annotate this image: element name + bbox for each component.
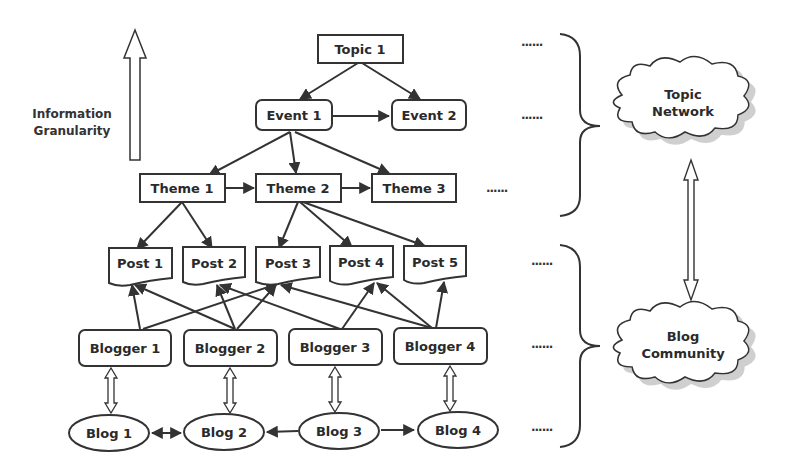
cloud-label: Community xyxy=(641,346,725,361)
cloud-link-double-arrow-icon xyxy=(684,160,698,300)
cloud-label: Blog xyxy=(667,329,700,344)
theme-node[interactable]: Theme 2 xyxy=(256,174,341,202)
blog-node[interactable]: Blog 3 xyxy=(299,413,379,449)
svg-text:Blogger 4: Blogger 4 xyxy=(405,339,476,354)
blogger-node[interactable]: Blogger 4 xyxy=(394,328,487,364)
post-node[interactable]: Post 5 xyxy=(404,246,466,284)
svg-text:......: ...... xyxy=(531,420,553,434)
granularity-arrow-icon xyxy=(124,30,146,160)
svg-text:Post 2: Post 2 xyxy=(191,256,237,271)
svg-text:Post 3: Post 3 xyxy=(265,256,311,271)
svg-text:Post 4: Post 4 xyxy=(338,255,384,270)
axis-label-line2: Granularity xyxy=(34,124,111,138)
topic-node[interactable]: Topic 1 xyxy=(318,35,403,63)
ellipsis-markers: ...... ...... ...... ...... ...... .....… xyxy=(486,35,553,434)
svg-text:Blog 3: Blog 3 xyxy=(316,424,362,439)
cloud-label: Network xyxy=(652,104,714,119)
post-node[interactable]: Post 2 xyxy=(183,247,245,285)
post-node[interactable]: Post 1 xyxy=(109,248,172,286)
svg-text:Blog 1: Blog 1 xyxy=(86,426,132,441)
theme-node[interactable]: Theme 3 xyxy=(372,174,456,202)
svg-text:Post 1: Post 1 xyxy=(117,256,163,271)
double-arrow-icon xyxy=(105,368,117,413)
double-arrow-icon xyxy=(444,366,456,411)
svg-text:......: ...... xyxy=(531,337,553,351)
svg-text:Event 2: Event 2 xyxy=(401,108,456,123)
brace-topic-network xyxy=(560,34,600,216)
svg-text:......: ...... xyxy=(486,181,508,195)
svg-text:Post 5: Post 5 xyxy=(412,255,458,270)
event-node[interactable]: Event 1 xyxy=(256,100,332,130)
svg-text:Theme 2: Theme 2 xyxy=(267,181,330,196)
svg-text:......: ...... xyxy=(521,35,543,49)
theme-node[interactable]: Theme 1 xyxy=(140,174,225,202)
blogger-node[interactable]: Blogger 1 xyxy=(79,330,171,366)
axis-label-line1: Information xyxy=(32,107,112,121)
cloud-label: Topic xyxy=(664,87,702,102)
post-node[interactable]: Post 3 xyxy=(256,247,320,285)
diagram-canvas: Information Granularity Topic 1 xyxy=(0,0,805,473)
svg-text:Blogger 3: Blogger 3 xyxy=(300,340,371,355)
blogger-node[interactable]: Blogger 3 xyxy=(289,329,382,365)
svg-text:Blogger 1: Blogger 1 xyxy=(90,341,161,356)
blog-node[interactable]: Blog 1 xyxy=(69,415,149,451)
blogger-blog-links xyxy=(105,366,456,413)
blogger-post-edges xyxy=(132,282,444,329)
blog-node[interactable]: Blog 2 xyxy=(184,414,264,450)
svg-text:Blog 2: Blog 2 xyxy=(201,425,247,440)
blog-node[interactable]: Blog 4 xyxy=(418,412,498,448)
svg-text:Topic 1: Topic 1 xyxy=(334,42,385,57)
event-node[interactable]: Event 2 xyxy=(392,100,466,130)
svg-text:Theme 1: Theme 1 xyxy=(151,181,214,196)
svg-text:Blogger 2: Blogger 2 xyxy=(195,341,266,356)
double-arrow-icon xyxy=(224,368,236,413)
svg-text:Theme 3: Theme 3 xyxy=(383,181,446,196)
brace-blog-community xyxy=(560,245,600,447)
blogger-node[interactable]: Blogger 2 xyxy=(184,330,277,366)
hierarchy-edges xyxy=(137,63,425,249)
svg-text:Event 1: Event 1 xyxy=(266,108,321,123)
svg-text:Blog 4: Blog 4 xyxy=(435,423,481,438)
double-arrow-icon xyxy=(329,367,341,412)
svg-text:......: ...... xyxy=(531,254,553,268)
svg-text:......: ...... xyxy=(521,108,543,122)
post-node[interactable]: Post 4 xyxy=(330,246,393,285)
